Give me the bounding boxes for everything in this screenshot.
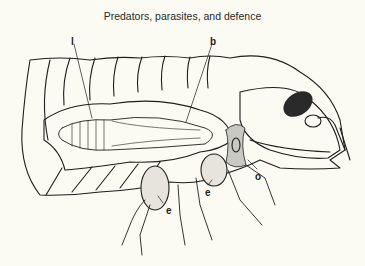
- neck-stipple: [226, 124, 246, 166]
- label-l: l: [71, 36, 74, 47]
- label-o: o: [255, 171, 261, 182]
- larva: [59, 117, 213, 150]
- label-b: b: [210, 36, 216, 47]
- label-e-2: e: [205, 187, 211, 198]
- body-outline: [22, 56, 345, 195]
- label-e-1: e: [166, 205, 172, 216]
- compound-eye: [279, 86, 318, 122]
- egg-mass-1: [141, 166, 169, 210]
- insect-illustration: [0, 0, 365, 266]
- egg-mass-2: [201, 154, 227, 186]
